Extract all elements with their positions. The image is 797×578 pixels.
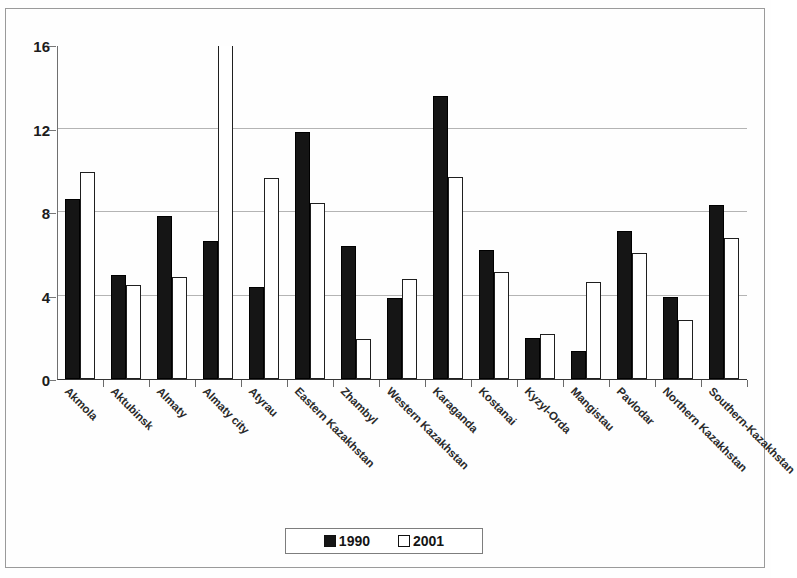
y-tick-mark bbox=[49, 297, 56, 298]
y-tick-mark bbox=[49, 213, 56, 214]
bar-2001 bbox=[448, 177, 463, 379]
bar-2001 bbox=[402, 279, 417, 379]
bar-2001 bbox=[126, 285, 141, 379]
x-axis-label: Southern-Kazakhstan bbox=[706, 385, 797, 476]
filled-square-icon bbox=[324, 535, 336, 547]
bar-1990 bbox=[387, 298, 402, 379]
bar-2001 bbox=[218, 46, 233, 379]
x-axis-label: Atyrau bbox=[246, 385, 280, 419]
x-tick-mark bbox=[471, 380, 472, 387]
bar-group bbox=[610, 46, 656, 379]
bar-1990 bbox=[433, 96, 448, 379]
x-tick-mark bbox=[149, 380, 150, 387]
legend-label: 1990 bbox=[339, 534, 370, 548]
x-tick-mark bbox=[747, 380, 748, 387]
bar-1990 bbox=[157, 216, 172, 379]
bar-1990 bbox=[479, 250, 494, 379]
x-axis-label: Mangistau bbox=[568, 385, 616, 433]
bar-1990 bbox=[295, 132, 310, 379]
y-tick-mark bbox=[49, 46, 56, 47]
x-axis-label: Almaty city bbox=[200, 385, 251, 436]
bar-1990 bbox=[663, 297, 678, 379]
x-axis-label: Western Kazakhstan bbox=[384, 385, 471, 472]
bar-2001 bbox=[264, 178, 279, 379]
x-axis-label: Pavlodar bbox=[614, 385, 656, 427]
legend-label: 2001 bbox=[413, 534, 444, 548]
bar-1990 bbox=[525, 338, 540, 379]
x-axis-label: Eastern Kazakhstan bbox=[292, 385, 376, 469]
bar-2001 bbox=[310, 203, 325, 379]
bar-group bbox=[150, 46, 196, 379]
bar-2001 bbox=[494, 272, 509, 380]
bar-2001 bbox=[540, 334, 555, 379]
chart-legend: 19902001 bbox=[285, 528, 483, 554]
x-tick-mark bbox=[425, 380, 426, 387]
plot-area bbox=[57, 46, 747, 380]
bar-group bbox=[702, 46, 747, 379]
x-tick-mark bbox=[241, 380, 242, 387]
bar-group bbox=[656, 46, 702, 379]
x-tick-mark bbox=[287, 380, 288, 387]
bar-1990 bbox=[341, 246, 356, 379]
bar-1990 bbox=[203, 241, 218, 379]
bar-group bbox=[472, 46, 518, 379]
bar-1990 bbox=[709, 205, 724, 379]
y-tick-label: 16 bbox=[16, 39, 50, 54]
x-axis-label: Aktubinsk bbox=[108, 385, 155, 432]
bar-2001 bbox=[586, 282, 601, 379]
x-tick-mark bbox=[701, 380, 702, 387]
x-axis-labels: AkmolaAktubinskAlmatyAlmaty cityAtyrauEa… bbox=[0, 385, 771, 525]
x-axis-label: Zhambyl bbox=[338, 385, 379, 426]
bar-2001 bbox=[356, 339, 371, 379]
bar-group bbox=[380, 46, 426, 379]
x-axis-label: Northern Kazakhstan bbox=[660, 385, 749, 474]
bar-group bbox=[334, 46, 380, 379]
bar-2001 bbox=[172, 277, 187, 379]
bar-group bbox=[288, 46, 334, 379]
bar-2001 bbox=[632, 253, 647, 379]
bar-1990 bbox=[617, 231, 632, 379]
x-axis-label: Kostanai bbox=[476, 385, 518, 427]
y-tick-label: 12 bbox=[16, 123, 50, 138]
x-tick-mark bbox=[563, 380, 564, 387]
bar-group bbox=[564, 46, 610, 379]
legend-item-1990: 1990 bbox=[324, 534, 370, 548]
y-tick-mark bbox=[49, 130, 56, 131]
x-tick-mark bbox=[103, 380, 104, 387]
bar-group bbox=[196, 46, 242, 379]
x-tick-mark bbox=[609, 380, 610, 387]
x-axis-label: Karaganda bbox=[430, 385, 480, 435]
y-axis: 0481216 bbox=[8, 46, 50, 380]
empty-square-icon bbox=[398, 535, 410, 547]
bar-1990 bbox=[571, 351, 586, 379]
legend-item-2001: 2001 bbox=[398, 534, 444, 548]
bar-1990 bbox=[65, 199, 80, 379]
y-tick-label: 4 bbox=[16, 290, 50, 305]
y-tick-label: 8 bbox=[16, 206, 50, 221]
x-axis-label: Almaty bbox=[154, 385, 189, 420]
bar-2001 bbox=[724, 238, 739, 379]
y-tick-mark bbox=[49, 380, 56, 381]
bar-group bbox=[426, 46, 472, 379]
x-tick-mark bbox=[655, 380, 656, 387]
bar-group bbox=[104, 46, 150, 379]
bar-1990 bbox=[249, 287, 264, 379]
x-tick-mark bbox=[333, 380, 334, 387]
bar-2001 bbox=[80, 172, 95, 379]
bar-1990 bbox=[111, 275, 126, 379]
x-axis-label: Akmola bbox=[62, 385, 99, 422]
x-tick-mark bbox=[195, 380, 196, 387]
bar-group bbox=[518, 46, 564, 379]
x-tick-mark bbox=[517, 380, 518, 387]
bar-2001 bbox=[678, 320, 693, 379]
x-tick-mark bbox=[379, 380, 380, 387]
bar-group bbox=[58, 46, 104, 379]
x-axis-label: Kyzyl-Orda bbox=[522, 385, 573, 436]
bar-group bbox=[242, 46, 288, 379]
